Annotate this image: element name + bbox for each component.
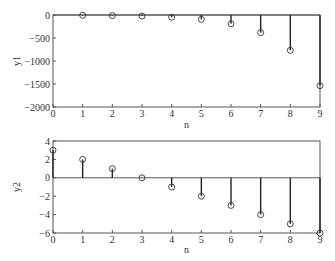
y-tick-label: −6 xyxy=(39,228,50,239)
y-axis-label: y2 xyxy=(11,182,22,192)
axes-box xyxy=(53,15,320,107)
y-tick-label: −2 xyxy=(39,191,50,202)
x-tick-label: 1 xyxy=(80,234,85,245)
x-tick-label: 6 xyxy=(229,108,234,119)
x-tick-label: 2 xyxy=(110,234,115,245)
x-tick-label: 3 xyxy=(140,108,145,119)
y-tick-label: 4 xyxy=(45,136,50,147)
x-tick-label: 9 xyxy=(318,108,323,119)
x-tick-label: 1 xyxy=(80,108,85,119)
y-tick-label: 2 xyxy=(45,154,50,165)
subplot-1: 01234567890−500−1000−1500−2000ny1 xyxy=(11,10,323,131)
x-tick-label: 5 xyxy=(199,108,204,119)
x-tick-label: 2 xyxy=(110,108,115,119)
y-axis-label: y1 xyxy=(11,56,22,66)
x-tick-label: 5 xyxy=(199,234,204,245)
x-tick-label: 7 xyxy=(258,108,263,119)
y-tick-label: −4 xyxy=(39,209,50,220)
y-tick-label: 0 xyxy=(45,172,50,183)
x-tick-label: 0 xyxy=(51,108,56,119)
y-tick-label: −500 xyxy=(29,33,50,44)
x-tick-label: 3 xyxy=(140,234,145,245)
x-tick-label: 0 xyxy=(51,234,56,245)
y-tick-label: −2000 xyxy=(24,102,50,113)
axes-box xyxy=(53,141,320,233)
x-tick-label: 4 xyxy=(169,108,174,119)
x-tick-label: 8 xyxy=(288,108,293,119)
y-tick-label: −1000 xyxy=(24,56,50,67)
y-tick-label: 0 xyxy=(45,10,50,21)
x-tick-label: 6 xyxy=(229,234,234,245)
stem-plots-figure: 01234567890−500−1000−1500−2000ny10123456… xyxy=(0,0,335,261)
y-tick-label: −1500 xyxy=(24,79,50,90)
x-axis-label: n xyxy=(184,244,189,255)
x-tick-label: 7 xyxy=(258,234,263,245)
subplot-2: 0123456789420−2−4−6ny2 xyxy=(11,136,323,256)
x-tick-label: 8 xyxy=(288,234,293,245)
x-axis-label: n xyxy=(184,119,189,130)
x-tick-label: 4 xyxy=(169,234,174,245)
